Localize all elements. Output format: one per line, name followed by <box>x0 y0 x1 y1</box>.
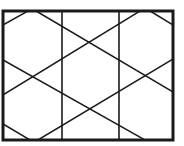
diagonal-line <box>150 11 173 25</box>
lattice-diagram <box>0 0 184 146</box>
diagonal-line <box>36 11 173 92</box>
diagonal-line <box>3 11 28 25</box>
diagonal-line <box>3 124 30 140</box>
outer-frame <box>3 11 173 140</box>
line-group <box>3 11 173 140</box>
diagonal-line <box>38 59 173 140</box>
diagonal-line <box>3 60 145 140</box>
